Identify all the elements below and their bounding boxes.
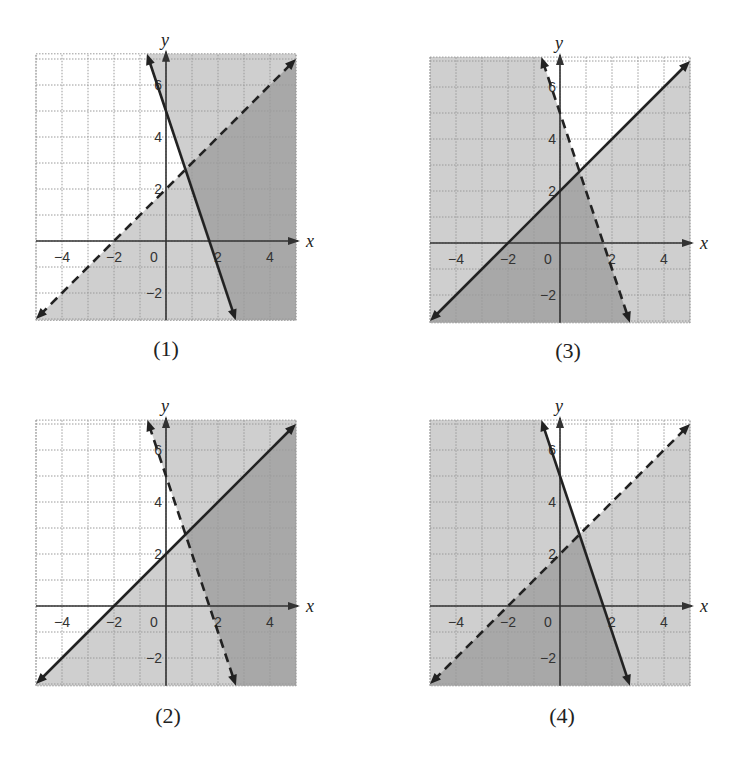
y-axis-label: y <box>159 30 169 50</box>
y-tick-label: 4 <box>154 129 162 145</box>
y-tick-label: −2 <box>540 287 556 303</box>
caption-graph-3: (3) <box>555 338 581 364</box>
caption-graph-4: (4) <box>549 703 575 729</box>
x-tick-label: −2 <box>106 249 122 265</box>
y-axis-label: y <box>553 33 563 53</box>
y-axis-label: y <box>159 396 169 416</box>
x-tick-label: 0 <box>544 614 552 630</box>
figure-four-inequality-graphs: xy−4−2024−2246xy−4−2024−2246xy−4−2024−22… <box>0 0 733 767</box>
x-tick-label: −4 <box>54 614 70 630</box>
y-tick-label: −2 <box>146 285 162 301</box>
arrowhead-icon <box>541 420 550 432</box>
x-axis-label: x <box>305 231 314 251</box>
x-tick-label: −4 <box>448 614 464 630</box>
x-tick-label: 0 <box>150 614 158 630</box>
x-tick-label: −2 <box>500 614 516 630</box>
y-tick-label: 4 <box>548 131 556 147</box>
arrowhead-icon <box>541 57 550 69</box>
y-tick-label: −2 <box>540 650 556 666</box>
x-tick-label: 0 <box>150 249 158 265</box>
x-tick-label: −4 <box>54 249 70 265</box>
x-tick-label: −2 <box>500 251 516 267</box>
y-tick-label: 4 <box>154 494 162 510</box>
y-tick-label: −2 <box>146 650 162 666</box>
x-tick-label: 0 <box>544 251 552 267</box>
caption-graph-2: (2) <box>155 703 181 729</box>
x-tick-label: 4 <box>660 614 668 630</box>
y-tick-label: 4 <box>548 494 556 510</box>
x-tick-label: 4 <box>266 249 274 265</box>
caption-graph-1: (1) <box>153 336 179 362</box>
graph-g3: xy−4−2024−2246 <box>430 33 708 323</box>
x-axis-label: x <box>699 596 708 616</box>
x-tick-label: 4 <box>660 251 668 267</box>
x-tick-label: −4 <box>448 251 464 267</box>
graph-g4: xy−4−2024−2246 <box>430 396 708 686</box>
graphs-canvas: xy−4−2024−2246xy−4−2024−2246xy−4−2024−22… <box>0 0 733 767</box>
x-tick-label: 4 <box>266 614 274 630</box>
x-axis-label: x <box>699 233 708 253</box>
graph-g2: xy−4−2024−2246 <box>36 396 314 686</box>
y-axis-arrow-icon <box>556 416 564 428</box>
x-tick-label: −2 <box>106 614 122 630</box>
y-axis-arrow-icon <box>556 53 564 65</box>
x-axis-label: x <box>305 596 314 616</box>
graph-g1: xy−4−2024−2246 <box>36 30 314 321</box>
y-axis-label: y <box>553 396 563 416</box>
